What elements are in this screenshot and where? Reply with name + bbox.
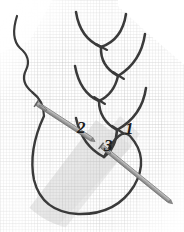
step-label-2: 2 <box>77 119 86 136</box>
step-label-1: 1 <box>125 120 134 137</box>
fabric-weave-grid <box>0 0 184 232</box>
step-label-3: 3 <box>104 137 113 154</box>
stitch-diagram-figure: 1 2 3 <box>0 0 184 232</box>
diagram-canvas <box>0 0 184 232</box>
